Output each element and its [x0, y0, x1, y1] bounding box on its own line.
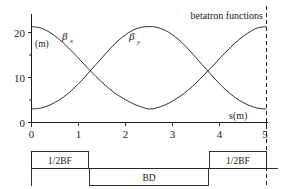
beta-x-symbol: β — [61, 30, 68, 42]
x-tick-label-4: 4 — [217, 128, 223, 140]
x-axis-ticks — [32, 123, 267, 128]
beta-x-subscript: x — [69, 37, 74, 45]
x-tick-label-0: 0 — [29, 128, 35, 140]
x-tick-label-2: 2 — [123, 128, 129, 140]
figure-annotation: betatron functions — [191, 10, 264, 21]
beta-y-label: β y — [128, 30, 141, 46]
y-tick-label-10: 10 — [14, 72, 26, 84]
beta-y-symbol: β — [128, 30, 135, 42]
lattice-element-bf-right: 1/2BF — [210, 152, 267, 169]
x-axis-name-label: s(m) — [229, 110, 247, 122]
lattice-diagram: 1/2BF BD 1/2BF — [32, 152, 279, 187]
lattice-element-bf-left: 1/2BF — [32, 152, 89, 169]
x-tick-label-3: 3 — [170, 128, 176, 140]
lattice-label-bd: BD — [142, 173, 155, 183]
y-axis-major-ticks — [28, 33, 32, 123]
y-axis-unit-label: (m) — [35, 39, 49, 50]
plot-area: 0 10 20 (m) 0 1 2 3 4 5 s(m) — [14, 10, 268, 140]
lattice-label-bf-left: 1/2BF — [48, 156, 72, 166]
x-tick-label-1: 1 — [76, 128, 82, 140]
figure-svg: 0 10 20 (m) 0 1 2 3 4 5 s(m) — [0, 0, 287, 189]
beta-y-subscript: y — [136, 38, 141, 46]
lattice-label-bf-right: 1/2BF — [226, 156, 250, 166]
y-tick-label-20: 20 — [14, 27, 26, 39]
y-tick-label-0: 0 — [20, 117, 26, 129]
betatron-function-figure: 0 10 20 (m) 0 1 2 3 4 5 s(m) — [0, 0, 287, 189]
x-tick-label-5: 5 — [262, 128, 268, 140]
lattice-element-bd: BD — [90, 169, 209, 186]
